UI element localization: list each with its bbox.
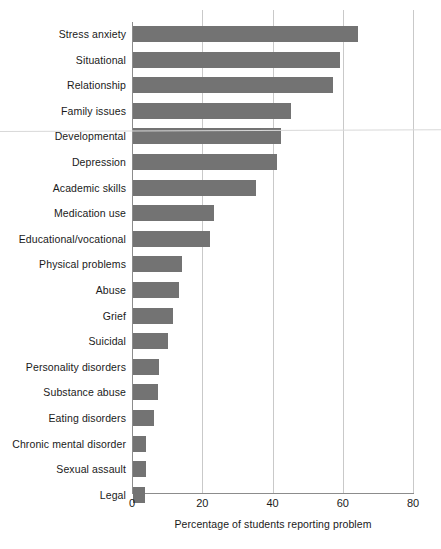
- x-axis-title: Percentage of students reporting problem: [132, 518, 414, 530]
- bar: [133, 461, 146, 477]
- category-label: Chronic mental disorder: [0, 432, 126, 458]
- category-label: Eating disorders: [0, 406, 126, 432]
- bar: [133, 26, 358, 42]
- bar: [133, 436, 146, 452]
- category-label: Personality disorders: [0, 355, 126, 381]
- category-label: Depression: [0, 150, 126, 176]
- x-tick-label-0: 0: [112, 497, 152, 509]
- bar-row: [133, 227, 414, 253]
- bar: [133, 333, 168, 349]
- bar: [133, 52, 340, 68]
- bar-row: [133, 22, 414, 48]
- bar: [133, 180, 256, 196]
- bar-row: [133, 457, 414, 483]
- bar-row: [133, 48, 414, 74]
- bar-row: [133, 150, 414, 176]
- x-tick-label-40: 40: [253, 497, 293, 509]
- bar: [133, 256, 182, 272]
- category-label: Family issues: [0, 99, 126, 125]
- bar-row: [133, 380, 414, 406]
- category-label: Stress anxiety: [0, 22, 126, 48]
- category-label: Legal: [0, 483, 126, 509]
- bar: [133, 77, 333, 93]
- category-label: Substance abuse: [0, 380, 126, 406]
- bar-row: [133, 99, 414, 125]
- bar: [133, 308, 173, 324]
- x-tick-label-20: 20: [182, 497, 222, 509]
- category-label: Developmental: [0, 124, 126, 150]
- bar: [133, 410, 154, 426]
- category-label: Physical problems: [0, 252, 126, 278]
- bar-chart: Stress anxietySituationalRelationshipFam…: [0, 0, 441, 549]
- category-label: Sexual assault: [0, 457, 126, 483]
- bar: [133, 103, 291, 119]
- category-label: Grief: [0, 304, 126, 330]
- bar-row: [133, 252, 414, 278]
- bar-row: [133, 432, 414, 458]
- bar: [133, 282, 179, 298]
- bar: [133, 231, 210, 247]
- category-label: Medication use: [0, 201, 126, 227]
- category-label: Relationship: [0, 73, 126, 99]
- category-label: Situational: [0, 48, 126, 74]
- bar: [133, 384, 158, 400]
- bar-row: [133, 176, 414, 202]
- category-label: Suicidal: [0, 329, 126, 355]
- category-label: Educational/vocational: [0, 227, 126, 253]
- bar-row: [133, 304, 414, 330]
- bar-row: [133, 73, 414, 99]
- x-tick-label-60: 60: [323, 497, 363, 509]
- bar-row: [133, 406, 414, 432]
- category-label: Academic skills: [0, 176, 126, 202]
- bar: [133, 154, 277, 170]
- category-axis-labels: Stress anxietySituationalRelationshipFam…: [0, 22, 126, 493]
- bar: [133, 205, 214, 221]
- bar-row: [133, 124, 414, 150]
- bar-row: [133, 355, 414, 381]
- bar-series: [133, 22, 414, 493]
- bar-row: [133, 329, 414, 355]
- bar: [133, 359, 159, 375]
- bar-row: [133, 201, 414, 227]
- bar: [133, 128, 281, 144]
- category-label: Abuse: [0, 278, 126, 304]
- bar-row: [133, 278, 414, 304]
- x-tick-label-80: 80: [393, 497, 433, 509]
